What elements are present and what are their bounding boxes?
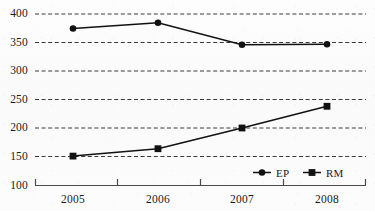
x-axis-label-2007: 2007 [219,194,265,206]
x-axis [35,179,366,186]
series-ep-point-2006 [155,19,162,26]
y-axis-label-400: 400 [2,8,28,20]
series-rm-point-2007 [239,125,246,132]
x-axis-label-2008: 2008 [304,194,350,206]
y-axis-label-300: 300 [2,65,28,77]
x-axis-label-2005: 2005 [50,194,96,206]
legend-rm-marker-icon [309,169,316,176]
y-axis-label-150: 150 [2,151,28,163]
series-rm-point-2008 [324,103,331,110]
legend-item-ep-label: EP [276,168,289,179]
gridlines [35,14,366,157]
y-axis-label-250: 250 [2,94,28,106]
series-rm-line [73,106,327,156]
y-axis-label-200: 200 [2,122,28,134]
line-chart: 400 350 300 250 200 150 100 2005 2006 20… [0,0,375,211]
series-ep-point-2008 [324,41,331,48]
series-rm-point-2005 [70,153,77,160]
series-ep-point-2005 [70,25,77,32]
y-axis-label-350: 350 [2,37,28,49]
chart-plot-area [0,0,375,211]
series-ep-line [73,23,327,45]
legend-item-rm-label: RM [326,168,344,179]
series-rm-point-2006 [155,145,162,152]
y-axis-label-100: 100 [2,180,28,192]
series-ep-point-2007 [239,41,246,48]
series-rm [70,103,331,160]
x-axis-label-2006: 2006 [135,194,181,206]
series-ep [70,19,331,48]
legend-ep-marker-icon [259,169,266,176]
